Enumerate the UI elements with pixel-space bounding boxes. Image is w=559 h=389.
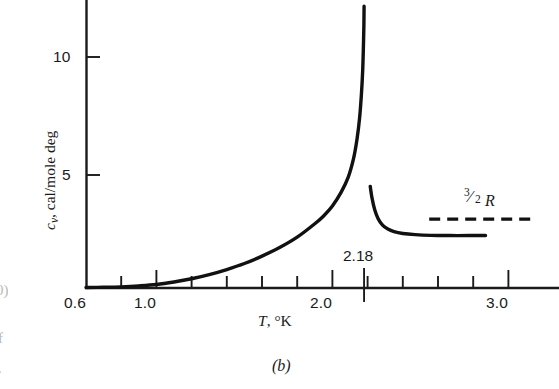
axes bbox=[85, 0, 559, 289]
gas-constant-symbol: R bbox=[485, 192, 495, 209]
curve-he-i bbox=[86, 6, 364, 287]
y-axis-ticks bbox=[87, 57, 101, 175]
page-edge-fragment-2: f bbox=[0, 330, 8, 347]
x-axis-ticks bbox=[121, 270, 508, 287]
x-tick-label-0.6: 0.6 bbox=[64, 295, 86, 311]
lambda-point-label: 2.18 bbox=[343, 248, 373, 264]
y-tick-label-5: 5 bbox=[62, 167, 71, 183]
y-axis-symbol: c bbox=[41, 223, 58, 230]
three-halves-r-label: 3 ⁄ 2 R bbox=[464, 190, 495, 209]
x-axis-units: , °K bbox=[267, 312, 292, 329]
fraction-denominator: 2 bbox=[475, 194, 481, 206]
page-edge-fragment-1: 0) bbox=[0, 282, 8, 299]
y-tick-label-10: 10 bbox=[53, 49, 70, 65]
y-axis-title: cv, cal/mole deg bbox=[42, 131, 60, 230]
fraction-three-halves: 3 ⁄ 2 bbox=[464, 190, 483, 207]
figure-caption: (b) bbox=[272, 358, 291, 374]
y-axis-units: , cal/mole deg bbox=[41, 131, 58, 218]
fraction-slash: ⁄ bbox=[469, 188, 472, 205]
x-tick-label-3.0: 3.0 bbox=[486, 295, 508, 311]
page-edge-fragment-3: . bbox=[0, 360, 8, 377]
x-axis-symbol: T bbox=[258, 312, 267, 329]
figure-panel: 10 5 0.6 1.0 2.0 3.0 2.18 T, °K cv, cal/… bbox=[0, 0, 559, 389]
y-axis-subscript: v bbox=[48, 218, 60, 223]
x-tick-label-2.0: 2.0 bbox=[310, 295, 332, 311]
x-tick-label-1.0: 1.0 bbox=[134, 295, 156, 311]
x-axis-title: T, °K bbox=[258, 313, 292, 329]
